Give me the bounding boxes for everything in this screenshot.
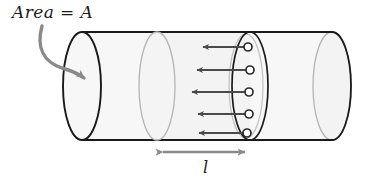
physics-diagram: Area = A l [0, 0, 367, 183]
particle [243, 129, 251, 137]
particle [246, 66, 254, 74]
length-label: l [203, 160, 208, 176]
area-label: Area = A [12, 4, 93, 21]
near-end-cap [63, 32, 101, 140]
particle [245, 88, 253, 96]
particle [245, 110, 253, 118]
diagram-canvas [0, 0, 367, 183]
cross-section-left [139, 32, 175, 140]
particle [244, 43, 252, 51]
